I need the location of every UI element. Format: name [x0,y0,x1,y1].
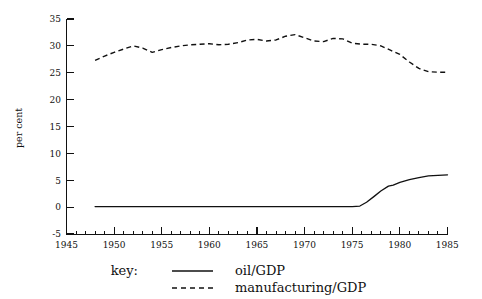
y-tick-label: 35 [50,14,62,24]
x-tick-label: 1970 [293,240,316,250]
series-line-oil-gdp [95,175,447,207]
legend-label-oil-gdp: oil/GDP [235,263,285,278]
x-axis-ticks [67,227,448,234]
y-tick-label: 25 [50,68,62,78]
y-tick-label: -5 [52,229,61,239]
legend-label-manufacturing-gdp: manufacturing/GDP [235,280,367,295]
y-tick-label: 0 [55,202,61,212]
series-line-manufacturing-gdp [95,35,447,73]
legend-title: key: [111,263,138,278]
x-tick-label: 1975 [341,240,364,250]
x-tick-label: 1960 [198,240,221,250]
x-tick-label: 1945 [55,240,78,250]
y-axis-tick-labels: 35 30 25 20 15 10 5 0 -5 [50,14,62,239]
line-chart: per cent 35 30 25 20 15 10 5 0 -5 [0,0,482,299]
x-tick-label: 1950 [103,240,126,250]
y-tick-label: 5 [55,176,61,186]
y-tick-label: 20 [50,95,62,105]
y-tick-label: 30 [50,41,62,51]
x-tick-label: 1965 [245,240,268,250]
y-tick-label: 10 [50,149,62,159]
y-axis-ticks [67,19,74,234]
chart-legend: key: oil/GDP manufacturing/GDP [111,263,367,295]
chart-figure: per cent 35 30 25 20 15 10 5 0 -5 [0,0,482,299]
x-tick-label: 1985 [436,240,459,250]
y-axis-title: per cent [13,108,24,148]
x-tick-label: 1980 [388,240,411,250]
y-tick-label: 15 [50,122,62,132]
x-axis-tick-labels: 1945 1950 1955 1960 1965 1970 1975 1980 … [55,240,459,250]
x-tick-label: 1955 [150,240,173,250]
